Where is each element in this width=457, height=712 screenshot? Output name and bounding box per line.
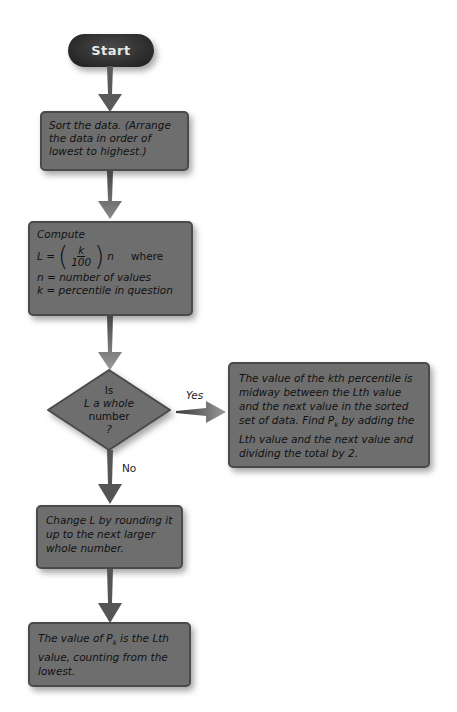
arrow-down-icon	[96, 66, 124, 112]
round-up-step-box: Change L by rounding it up to the next l…	[36, 505, 183, 569]
start-node: Start	[68, 34, 154, 67]
formula-where: where	[131, 250, 163, 263]
formula-denominator: 100	[71, 257, 91, 268]
arrow-down-icon	[96, 450, 124, 504]
compute-step-box: Compute L = ( k 100 ) n where n = number…	[28, 221, 193, 316]
arrow-down-icon	[96, 569, 124, 623]
arrow-down-icon	[96, 316, 124, 370]
final-result-box: The value of Pk is the Lth value, counti…	[28, 622, 191, 687]
compute-title: Compute	[37, 228, 184, 241]
definition-n: n = number of values	[37, 271, 184, 284]
decision-diamond: Is L a whole number ?	[46, 368, 172, 452]
arrow-down-icon	[96, 171, 124, 219]
decision-line-4: ?	[106, 423, 112, 436]
decision-line-3: number	[89, 410, 130, 423]
yes-result-box: The value of the kth percentile is midwa…	[228, 362, 430, 468]
decision-question: Is L a whole number ?	[46, 368, 172, 452]
formula-variable: n	[107, 250, 114, 263]
formula-lhs: L =	[37, 250, 55, 263]
sort-step-box: Sort the data. (Arrange the data in orde…	[40, 111, 189, 171]
arrow-right-icon	[176, 400, 226, 424]
definition-k: k = percentile in question	[37, 284, 184, 297]
round-up-text: Change L by rounding it up to the next l…	[46, 514, 172, 554]
formula-fraction: k 100	[71, 245, 91, 268]
no-label: No	[122, 462, 136, 474]
sort-step-text: Sort the data. (Arrange the data in orde…	[49, 119, 171, 157]
formula-numerator: k	[77, 245, 85, 257]
start-label: Start	[91, 43, 130, 58]
final-result-text-1: The value of P	[38, 632, 113, 644]
decision-line-2: L a whole	[84, 397, 134, 410]
percentile-formula: L = ( k 100 ) n where	[37, 243, 184, 269]
decision-line-1: Is	[105, 384, 114, 397]
